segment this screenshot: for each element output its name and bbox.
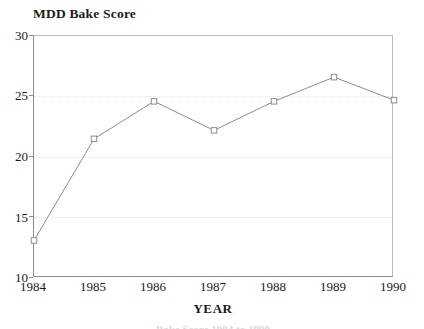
y-tick-mark-10 [29, 277, 33, 278]
data-point-1987 [211, 128, 217, 134]
x-tick-label-1989: 1989 [305, 280, 361, 294]
chart-title: MDD Bake Score [33, 5, 136, 23]
x-tick-label-1984: 1984 [5, 280, 61, 294]
series-markers [31, 74, 397, 243]
x-tick-label-1986: 1986 [125, 280, 181, 294]
y-tick-label-20: 20 [0, 150, 28, 163]
data-series-line [34, 36, 394, 278]
y-tick-label-25: 25 [0, 89, 28, 102]
x-tick-label-1987: 1987 [185, 280, 241, 294]
y-tick-label-30: 30 [0, 29, 28, 42]
data-point-1988 [271, 99, 277, 105]
data-point-1990 [391, 97, 397, 103]
chart-page: MDD Bake Score 30 25 20 15 10 1984 1985 … [0, 0, 424, 329]
data-point-1984 [31, 238, 37, 244]
series-polyline [34, 77, 394, 240]
plot-area [33, 35, 393, 277]
x-tick-label-1988: 1988 [245, 280, 301, 294]
y-tick-label-15: 15 [0, 211, 28, 224]
x-tick-label-1990: 1990 [365, 280, 421, 294]
x-axis-title: YEAR [33, 301, 393, 317]
data-point-1989 [331, 74, 337, 80]
data-point-1985 [91, 136, 97, 142]
bottom-caption-fragment: Bake Score 1984 to 1990 [33, 323, 393, 329]
x-tick-label-1985: 1985 [65, 280, 121, 294]
data-point-1986 [151, 99, 157, 105]
